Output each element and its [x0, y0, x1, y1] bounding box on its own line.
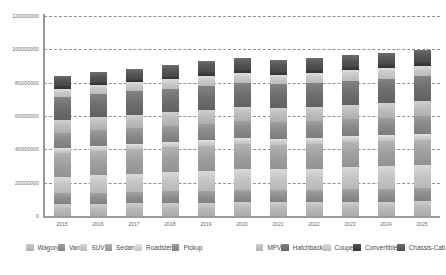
legend-item[interactable]: MPV: [256, 240, 281, 255]
bar-segment[interactable]: [306, 73, 323, 83]
bar-segment[interactable]: [378, 103, 395, 118]
bar-segment[interactable]: [162, 79, 179, 89]
legend-item[interactable]: SUV: [80, 240, 105, 255]
bar-segment[interactable]: [198, 61, 215, 71]
bar-segment[interactable]: [234, 58, 251, 68]
stacked-bar[interactable]: [342, 55, 359, 216]
stacked-bar[interactable]: [270, 60, 287, 216]
legend-item[interactable]: Hatchback: [281, 240, 323, 255]
bar-segment[interactable]: [162, 126, 179, 142]
bar-column[interactable]: [296, 16, 332, 216]
stacked-bar[interactable]: [90, 72, 107, 216]
bar-segment[interactable]: [414, 140, 431, 165]
bar-segment[interactable]: [234, 73, 251, 83]
legend-item[interactable]: Chassis-Cab: [397, 240, 445, 255]
bar-segment[interactable]: [90, 117, 107, 130]
bar-segment[interactable]: [414, 101, 431, 116]
bar-segment[interactable]: [90, 130, 107, 145]
bar-segment[interactable]: [234, 169, 251, 190]
bar-segment[interactable]: [306, 169, 323, 190]
bar-segment[interactable]: [342, 70, 359, 80]
bar-segment[interactable]: [198, 203, 215, 217]
bar-segment[interactable]: [162, 65, 179, 74]
bar-segment[interactable]: [378, 53, 395, 64]
bar-segment[interactable]: [342, 55, 359, 65]
bar-segment[interactable]: [342, 189, 359, 202]
bar-segment[interactable]: [342, 142, 359, 167]
bar-segment[interactable]: [54, 89, 71, 98]
bar-column[interactable]: [80, 16, 116, 216]
bar-segment[interactable]: [306, 190, 323, 202]
bar-segment[interactable]: [90, 94, 107, 117]
bar-column[interactable]: [116, 16, 152, 216]
bar-segment[interactable]: [306, 58, 323, 68]
bar-segment[interactable]: [198, 86, 215, 110]
bar-segment[interactable]: [198, 124, 215, 140]
bar-segment[interactable]: [90, 193, 107, 204]
bar-segment[interactable]: [378, 141, 395, 166]
bar-segment[interactable]: [306, 83, 323, 107]
bar-segment[interactable]: [414, 66, 431, 77]
bar-segment[interactable]: [414, 201, 431, 216]
legend-item[interactable]: Van: [58, 240, 80, 255]
bar-segment[interactable]: [414, 116, 431, 134]
bar-segment[interactable]: [162, 191, 179, 203]
bar-segment[interactable]: [126, 192, 143, 203]
bar-segment[interactable]: [234, 83, 251, 107]
bar-segment[interactable]: [126, 149, 143, 174]
bar-segment[interactable]: [414, 188, 431, 201]
bar-segment[interactable]: [234, 107, 251, 121]
bar-segment[interactable]: [126, 128, 143, 144]
bar-segment[interactable]: [306, 107, 323, 121]
bar-column[interactable]: [404, 16, 440, 216]
bar-segment[interactable]: [342, 119, 359, 136]
bar-segment[interactable]: [378, 118, 395, 136]
bar-segment[interactable]: [270, 108, 287, 122]
bar-segment[interactable]: [162, 112, 179, 126]
bar-segment[interactable]: [306, 202, 323, 216]
bar-segment[interactable]: [90, 175, 107, 192]
bar-segment[interactable]: [54, 97, 71, 120]
stacked-bar[interactable]: [378, 53, 395, 216]
bar-column[interactable]: [224, 16, 260, 216]
bar-segment[interactable]: [234, 121, 251, 138]
bar-segment[interactable]: [54, 120, 71, 133]
bar-segment[interactable]: [54, 193, 71, 204]
stacked-bar[interactable]: [162, 65, 179, 216]
legend-item[interactable]: Roadster: [135, 240, 172, 255]
bar-segment[interactable]: [198, 110, 215, 124]
bar-segment[interactable]: [270, 75, 287, 85]
bar-segment[interactable]: [126, 91, 143, 115]
bar-segment[interactable]: [162, 172, 179, 191]
bar-column[interactable]: [368, 16, 404, 216]
bar-column[interactable]: [332, 16, 368, 216]
bar-segment[interactable]: [378, 166, 395, 189]
stacked-bar[interactable]: [234, 58, 251, 216]
bar-segment[interactable]: [54, 177, 71, 193]
bar-segment[interactable]: [306, 144, 323, 169]
bar-segment[interactable]: [270, 169, 287, 190]
bar-segment[interactable]: [414, 76, 431, 100]
stacked-bar[interactable]: [414, 50, 431, 216]
bar-segment[interactable]: [270, 84, 287, 108]
bar-segment[interactable]: [198, 146, 215, 171]
bar-segment[interactable]: [90, 72, 107, 81]
bar-segment[interactable]: [342, 202, 359, 216]
bar-segment[interactable]: [162, 89, 179, 113]
bar-segment[interactable]: [342, 81, 359, 105]
legend-item[interactable]: Pickup: [172, 240, 256, 255]
bar-segment[interactable]: [90, 151, 107, 176]
bar-segment[interactable]: [342, 167, 359, 189]
bar-segment[interactable]: [270, 190, 287, 202]
bar-segment[interactable]: [378, 68, 395, 79]
legend-item[interactable]: Coupe: [323, 240, 353, 255]
bar-segment[interactable]: [198, 171, 215, 191]
stacked-bar[interactable]: [198, 61, 215, 216]
bar-column[interactable]: [260, 16, 296, 216]
legend-item[interactable]: Wagon: [26, 240, 58, 255]
bar-segment[interactable]: [90, 204, 107, 217]
bar-segment[interactable]: [414, 165, 431, 188]
bar-segment[interactable]: [162, 147, 179, 172]
bar-segment[interactable]: [270, 202, 287, 216]
bar-segment[interactable]: [378, 79, 395, 103]
